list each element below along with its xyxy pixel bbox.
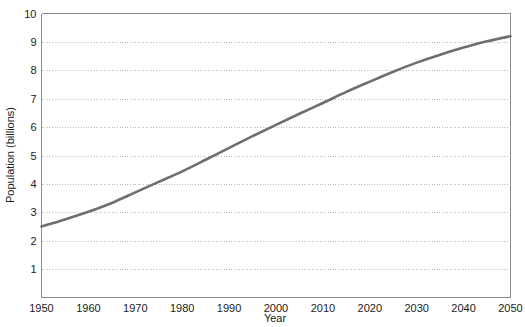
y-tick-label-4: 4 [30,178,36,190]
y-tick-label-2: 2 [30,235,36,247]
y-axis-title: Population (billions) [4,107,16,203]
chart-background [0,0,525,327]
x-tick-label-1990: 1990 [217,302,241,314]
x-tick-label-1960: 1960 [76,302,100,314]
x-tick-label-2020: 2020 [358,302,382,314]
x-tick-label-2030: 2030 [404,302,428,314]
x-tick-label-2010: 2010 [311,302,335,314]
x-tick-label-2050: 2050 [498,302,522,314]
x-axis-title: Year [264,312,287,324]
y-tick-label-5: 5 [30,150,36,162]
y-tick-label-3: 3 [30,206,36,218]
y-tick-label-7: 7 [30,93,36,105]
y-tick-label-6: 6 [30,121,36,133]
y-tick-label-8: 8 [30,64,36,76]
population-line-chart: 12345678910 1950196019701980199020002010… [0,0,525,327]
x-tick-label-1970: 1970 [123,302,147,314]
y-tick-label-1: 1 [30,263,36,275]
y-tick-label-10: 10 [24,8,36,20]
y-tick-label-9: 9 [30,36,36,48]
chart-canvas: 12345678910 1950196019701980199020002010… [0,0,525,327]
x-tick-label-2040: 2040 [451,302,475,314]
x-tick-label-1980: 1980 [170,302,194,314]
x-tick-label-1950: 1950 [29,302,53,314]
